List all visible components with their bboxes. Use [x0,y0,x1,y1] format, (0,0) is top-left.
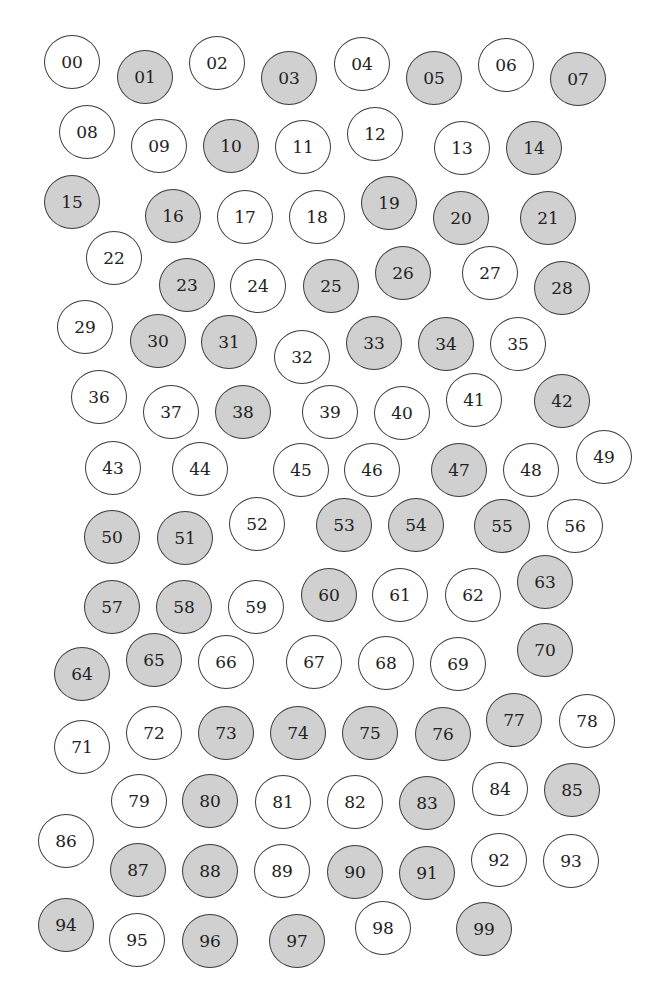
circle-number-label: 67 [303,654,325,671]
number-circle: 82 [327,775,383,829]
number-circle: 49 [576,430,632,484]
circle-number-label: 29 [74,319,96,336]
number-circle: 02 [189,36,245,90]
circle-number-label: 81 [272,794,294,811]
circle-number-label: 42 [551,393,573,410]
circle-number-label: 26 [392,265,414,282]
shaded-number-circle: 38 [215,385,271,439]
circle-number-label: 71 [71,739,93,756]
number-circle: 09 [131,119,187,173]
circle-number-label: 97 [286,933,308,950]
shaded-number-circle: 47 [431,443,487,497]
shaded-number-circle: 57 [84,580,140,634]
circle-number-label: 43 [102,460,124,477]
number-circle: 92 [471,833,527,887]
shaded-number-circle: 26 [375,246,431,300]
shaded-number-circle: 10 [203,119,259,173]
number-circle: 04 [334,37,390,91]
number-circle: 79 [111,774,167,828]
circle-number-label: 96 [199,933,221,950]
shaded-number-circle: 80 [182,774,238,828]
shaded-number-circle: 64 [54,647,110,701]
circle-number-label: 01 [134,69,156,86]
number-circle: 18 [289,190,345,244]
number-circle: 11 [275,120,331,174]
circle-number-label: 06 [495,57,517,74]
number-circle: 39 [302,385,358,439]
circle-number-label: 07 [567,71,589,88]
circle-number-label: 89 [271,863,293,880]
circle-number-label: 66 [215,654,237,671]
shaded-number-circle: 16 [145,189,201,243]
number-circle: 37 [143,385,199,439]
number-circle: 32 [274,330,330,384]
shaded-number-circle: 54 [388,498,444,552]
number-circle: 41 [446,373,502,427]
shaded-number-circle: 65 [126,633,182,687]
shaded-number-circle: 91 [399,846,455,900]
number-circle: 44 [172,442,228,496]
circle-number-label: 90 [344,864,366,881]
circle-number-label: 40 [391,405,413,422]
circle-number-label: 91 [416,865,438,882]
circle-number-label: 85 [561,782,583,799]
number-circle: 67 [286,635,342,689]
circle-number-label: 17 [234,209,256,226]
circle-number-label: 98 [372,920,394,937]
shaded-number-circle: 83 [399,776,455,830]
number-circle: 81 [255,775,311,829]
circle-number-label: 80 [199,793,221,810]
number-circle: 72 [126,706,182,760]
shaded-number-circle: 90 [327,845,383,899]
circle-number-label: 12 [364,126,386,143]
number-circle: 78 [559,694,615,748]
circle-number-label: 15 [61,194,83,211]
circle-number-label: 58 [173,599,195,616]
circle-number-label: 34 [435,336,457,353]
circle-number-label: 94 [55,917,77,934]
numbered-circle-grid: 0001020304050607080910111213141516171819… [0,0,657,994]
circle-number-label: 87 [127,862,149,879]
number-circle: 35 [490,317,546,371]
circle-number-label: 39 [319,404,341,421]
circle-number-label: 95 [126,932,148,949]
circle-number-label: 16 [162,208,184,225]
circle-number-label: 18 [306,209,328,226]
shaded-number-circle: 96 [182,914,238,968]
shaded-number-circle: 28 [534,261,590,315]
circle-number-label: 13 [451,140,473,157]
circle-number-label: 82 [344,794,366,811]
number-circle: 29 [57,300,113,354]
number-circle: 06 [478,38,534,92]
number-circle: 45 [273,443,329,497]
circle-number-label: 93 [560,853,582,870]
circle-number-label: 75 [359,725,381,742]
circle-number-label: 49 [593,449,615,466]
circle-number-label: 52 [246,516,268,533]
shaded-number-circle: 50 [84,510,140,564]
circle-number-label: 04 [351,56,373,73]
number-circle: 98 [355,901,411,955]
number-circle: 89 [254,844,310,898]
circle-number-label: 00 [61,54,83,71]
number-circle: 68 [358,636,414,690]
shaded-number-circle: 87 [110,843,166,897]
number-circle: 84 [472,762,528,816]
circle-number-label: 77 [503,712,525,729]
shaded-number-circle: 94 [38,898,94,952]
shaded-number-circle: 88 [182,844,238,898]
shaded-number-circle: 23 [159,258,215,312]
shaded-number-circle: 97 [269,914,325,968]
number-circle: 61 [372,568,428,622]
circle-number-label: 70 [534,642,556,659]
circle-number-label: 88 [199,863,221,880]
circle-number-label: 55 [491,518,513,535]
shaded-number-circle: 75 [342,706,398,760]
number-circle: 08 [59,105,115,159]
number-circle: 52 [229,497,285,551]
circle-number-label: 53 [333,517,355,534]
number-circle: 22 [86,231,142,285]
number-circle: 95 [109,913,165,967]
shaded-number-circle: 05 [406,51,462,105]
circle-number-label: 31 [218,334,240,351]
